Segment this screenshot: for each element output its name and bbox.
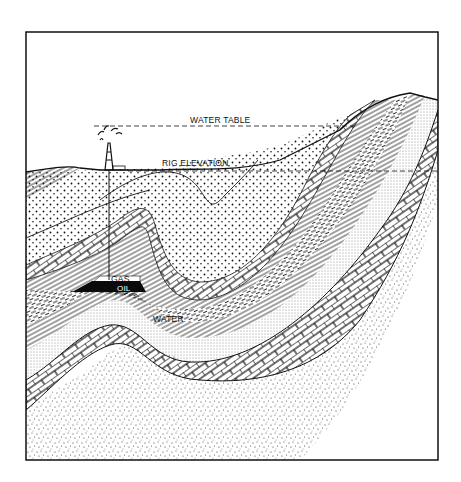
gas-label: GAS bbox=[111, 274, 130, 284]
water-label: WATER bbox=[153, 314, 184, 324]
water-table-label: WATER TABLE bbox=[190, 115, 251, 125]
oil-label: OIL bbox=[117, 284, 131, 293]
rig-elevation-label: RIG ELEVATION bbox=[162, 158, 229, 168]
geologic-cross-section: WATER TABLE RIG ELEVATION GAS OIL WATER bbox=[0, 0, 461, 482]
